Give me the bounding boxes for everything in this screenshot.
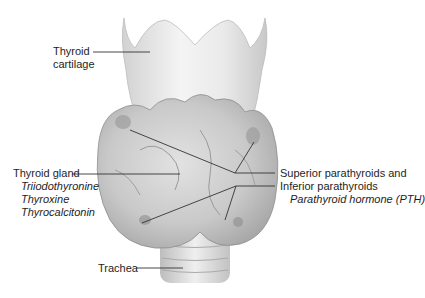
trachea-label: Trachea: [98, 262, 138, 275]
hormone-thyroxine: Thyroxine: [13, 193, 99, 206]
thyroid-gland-shape: [97, 94, 278, 248]
thyroid-cartilage-label: Thyroid cartilage: [53, 45, 95, 71]
superior-parathyroids: Superior parathyroids and: [280, 167, 425, 180]
thyroid-gland-title: Thyroid gland: [13, 167, 99, 180]
parathyroids-label: Superior parathyroids and Inferior parat…: [280, 167, 425, 206]
inferior-parathyroids: Inferior parathyroids: [280, 180, 425, 193]
hormone-pth: Parathyroid hormone (PTH): [280, 193, 425, 206]
hormone-thyrocalcitonin: Thyrocalcitonin: [13, 206, 99, 219]
thyroid-gland-label: Thyroid gland Triiodothyronine Thyroxine…: [13, 167, 99, 219]
hormone-triiodothyronine: Triiodothyronine: [13, 180, 99, 193]
